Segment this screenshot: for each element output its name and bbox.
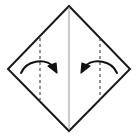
fold-diagram-figure: Origami fold step: fold left and right c…	[0, 0, 137, 137]
origami-diagram-container: Origami fold step: fold left and right c…	[0, 0, 137, 137]
